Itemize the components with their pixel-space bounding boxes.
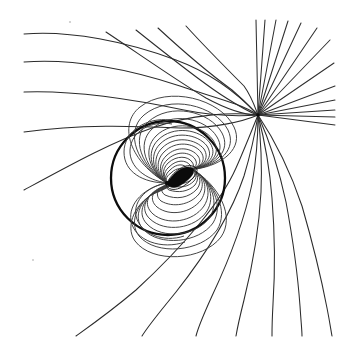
saddle-center-point	[256, 113, 260, 117]
field-line-figure	[0, 0, 343, 345]
field-line-plot	[0, 0, 343, 345]
scan-speck	[32, 259, 34, 261]
scan-speck	[69, 21, 71, 23]
dipole-center-point	[165, 181, 169, 185]
